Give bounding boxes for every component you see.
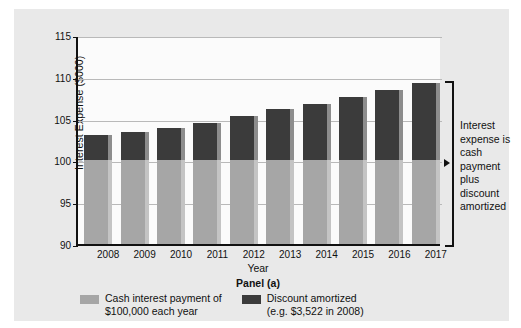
bar-segment-cash-interest <box>303 160 327 244</box>
y-tick-label: 100 <box>54 157 71 167</box>
bar-segment-discount-amortized <box>157 128 181 161</box>
bar-group <box>121 35 145 244</box>
panel-caption: Panel (a) <box>76 277 440 289</box>
legend-swatch <box>80 295 99 304</box>
y-tick-label: 105 <box>54 116 71 126</box>
bar-shadow <box>108 135 112 161</box>
annotation-bracket-pointer-icon <box>444 159 450 167</box>
bar-shadow <box>290 160 294 244</box>
bar-segment-discount-amortized <box>230 116 254 160</box>
bar-shadow <box>363 97 367 161</box>
chart-legend: Cash interest payment of $100,000 each y… <box>80 292 364 318</box>
figure-panel: Interest Expense ($000) 1151101051009590… <box>14 9 509 321</box>
bar-segment-discount-amortized <box>84 135 108 161</box>
bar-group <box>157 35 181 244</box>
bar-segment-discount-amortized <box>339 97 363 161</box>
bar-shadow <box>399 160 403 244</box>
bar-segment-cash-interest <box>230 160 254 244</box>
bar-group <box>375 35 399 244</box>
bar-shadow <box>327 160 331 244</box>
bar-segment-discount-amortized <box>193 123 217 161</box>
y-tick-label: 95 <box>60 199 71 209</box>
bar-shadow <box>217 160 221 244</box>
bar-segment-cash-interest <box>157 160 181 244</box>
bar-shadow <box>399 90 403 160</box>
bar-shadow <box>145 160 149 244</box>
bar-segment-cash-interest <box>375 160 399 244</box>
legend-label: Cash interest payment of $100,000 each y… <box>105 292 222 318</box>
bar-group <box>84 35 108 244</box>
y-tick-label: 110 <box>55 74 71 84</box>
bar-shadow <box>254 160 258 244</box>
bar-segment-cash-interest <box>193 160 217 244</box>
bar-shadow <box>145 132 149 160</box>
legend-swatch <box>242 295 261 304</box>
bar-shadow <box>436 160 440 244</box>
bar-segment-cash-interest <box>121 160 145 244</box>
y-tick-label: 115 <box>55 32 71 42</box>
bar-segment-cash-interest <box>266 160 290 244</box>
bar-shadow <box>290 109 294 160</box>
bar-series-container <box>78 35 442 244</box>
plot-area: Interest Expense ($000) 1151101051009590… <box>76 37 440 246</box>
bar-segment-cash-interest <box>339 160 363 244</box>
bar-group <box>303 35 327 244</box>
y-tick-mark <box>73 246 78 247</box>
bar-segment-discount-amortized <box>412 83 436 161</box>
bar-shadow <box>181 160 185 244</box>
legend-item: Discount amortized (e.g. $3,522 in 2008) <box>242 292 364 318</box>
legend-item: Cash interest payment of $100,000 each y… <box>80 292 222 318</box>
legend-label: Discount amortized (e.g. $3,522 in 2008) <box>267 292 364 318</box>
bar-group <box>193 35 217 244</box>
bar-group <box>230 35 254 244</box>
y-tick-label: 90 <box>60 241 71 251</box>
bar-group <box>339 35 363 244</box>
bar-group <box>266 35 290 244</box>
bar-shadow <box>217 123 221 161</box>
bar-shadow <box>108 160 112 244</box>
x-tick-label: 2017 <box>412 249 460 260</box>
bar-shadow <box>181 128 185 161</box>
annotation-note: Interest expense is cash payment plus di… <box>460 119 516 214</box>
bar-shadow <box>436 83 440 161</box>
x-axis-title: Year <box>76 262 440 274</box>
bar-segment-discount-amortized <box>303 104 327 161</box>
bar-segment-discount-amortized <box>121 132 145 160</box>
bar-segment-discount-amortized <box>266 109 290 160</box>
bar-group <box>412 35 436 244</box>
bar-shadow <box>363 160 367 244</box>
bar-segment-discount-amortized <box>375 90 399 160</box>
bar-shadow <box>254 116 258 160</box>
bar-segment-cash-interest <box>412 160 436 244</box>
bar-segment-cash-interest <box>84 160 108 244</box>
bar-shadow <box>327 104 331 161</box>
